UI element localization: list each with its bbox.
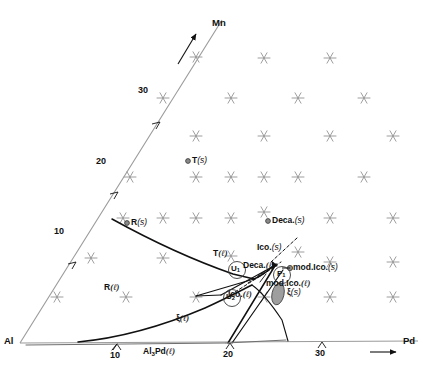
phase-label-T-solid: T(s) bbox=[192, 156, 207, 165]
phase-boundary-curves bbox=[26, 219, 297, 350]
left-axis-mn bbox=[20, 20, 222, 343]
solid-phase-dot-markers bbox=[125, 159, 293, 271]
phase-label-Deca-solid: Deca.(s) bbox=[272, 216, 305, 225]
invariant-label-U1: U1 bbox=[231, 265, 240, 274]
field-label-xi-liquid: ξ(ℓ) bbox=[176, 314, 189, 323]
phase-diagram-figure: Mn Pd Al 30 20 10 10 20 30 T(s) R(s) Dec… bbox=[0, 0, 430, 365]
invariant-label-U2: U2 bbox=[226, 293, 235, 302]
left-tick-label-30: 30 bbox=[138, 86, 148, 95]
axis-label-al: Al bbox=[4, 336, 14, 346]
phase-label-modIco-solid: mod.Ico.(s) bbox=[293, 263, 338, 272]
field-label-Deca-liquid: Deca.(ℓ) bbox=[243, 261, 275, 270]
sample-point-markers bbox=[51, 52, 399, 302]
left-tick-label-20: 20 bbox=[96, 157, 106, 166]
axis-label-pd: Pd bbox=[403, 336, 415, 346]
phase-label-Ico-solid: Ico.(s) bbox=[257, 243, 282, 252]
ternary-phase-diagram-canvas bbox=[0, 0, 430, 365]
field-label-T-liquid: T(ℓ) bbox=[213, 249, 228, 258]
invariant-label-P1: P1 bbox=[277, 270, 286, 279]
field-label-Al3Pd-liquid: Al3Pd(ℓ) bbox=[143, 347, 175, 357]
dot-Deca-s bbox=[266, 219, 271, 224]
phase-label-xi-solid: ξ(s) bbox=[287, 288, 301, 297]
left-axis-ticks bbox=[68, 122, 160, 269]
field-label-R-liquid: R(ℓ) bbox=[104, 283, 119, 292]
bottom-tick-label-10: 10 bbox=[110, 351, 120, 360]
bottom-tick-label-30: 30 bbox=[315, 349, 325, 358]
bottom-tick-label-20: 20 bbox=[223, 350, 233, 359]
boundary-axis20-to-ico bbox=[228, 264, 276, 343]
dot-R-s bbox=[125, 221, 130, 226]
phase-label-R-solid: R(s) bbox=[131, 218, 147, 227]
left-tick-label-10: 10 bbox=[54, 227, 64, 236]
field-label-modIco-liquid: mod.Ico.(ℓ) bbox=[266, 279, 310, 288]
dot-T-s bbox=[186, 159, 191, 164]
axis-label-mn: Mn bbox=[212, 18, 226, 28]
